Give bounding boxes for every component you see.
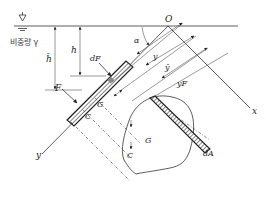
angle-label: α xyxy=(134,36,140,45)
diff-area-strip xyxy=(150,96,210,153)
depth-hbar-label: h̄ xyxy=(46,53,52,64)
angle-arc xyxy=(142,27,149,45)
plate-centroid-label: G xyxy=(97,100,104,109)
specific-weight-label: 비중량 γ xyxy=(10,37,39,47)
dist-ybar-label: ȳ xyxy=(164,63,170,72)
submerged-area xyxy=(122,96,193,174)
area-centroid-label: G xyxy=(145,136,152,145)
hydrostatic-diagram: 비중량 γ O x y α h h̄ F dF G C y ȳ yF xyxy=(0,0,266,197)
dist-yF-label: yF xyxy=(176,79,188,88)
diff-area-label: dA xyxy=(203,149,214,158)
depth-h-label: h xyxy=(71,45,77,55)
x-axis-label: x xyxy=(252,106,257,116)
free-surface-icon xyxy=(18,12,27,31)
plate-pressure-center-label: C xyxy=(85,112,91,121)
origin-label: O xyxy=(165,14,173,24)
force-label: F xyxy=(54,83,62,93)
area-pressure-center-label: C xyxy=(127,151,133,160)
y-axis-label: y xyxy=(35,150,42,160)
diff-force-label: dF xyxy=(90,54,101,63)
plate-edge-view xyxy=(67,61,133,126)
